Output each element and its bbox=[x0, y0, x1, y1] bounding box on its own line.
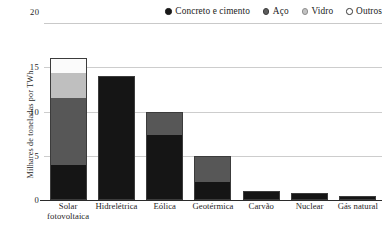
x-axis-label-line1: Gás natural bbox=[338, 201, 378, 211]
y-axis-max-label: 20 bbox=[30, 7, 39, 17]
bar-column bbox=[44, 23, 92, 200]
x-axis-label: Nuclear bbox=[285, 202, 333, 212]
bar-segment-concrete bbox=[243, 191, 280, 200]
chart-legend: Concreto e cimentoAçoVidroOutros bbox=[0, 6, 388, 20]
stacked-bar[interactable] bbox=[194, 156, 231, 200]
bar-segment-concrete bbox=[291, 193, 328, 200]
y-axis-tick-label: 5 bbox=[34, 151, 39, 161]
bar-column bbox=[141, 23, 189, 200]
bar-column bbox=[92, 23, 140, 200]
bar-segment-concrete bbox=[194, 182, 231, 200]
x-axis-labels: SolarfotovoltaicaHidrelétricaEólicaGeoté… bbox=[44, 202, 382, 230]
bar-column bbox=[334, 23, 382, 200]
y-axis-tick-label: 10 bbox=[30, 107, 39, 117]
x-axis-label: Eólica bbox=[141, 202, 189, 212]
x-axis-label: Carvão bbox=[237, 202, 285, 212]
legend-item-label: Concreto e cimento bbox=[175, 6, 250, 17]
legend-item-label: Aço bbox=[273, 6, 289, 17]
legend-item-other[interactable]: Outros bbox=[346, 6, 382, 17]
x-axis-label-line1: Hidrelétrica bbox=[95, 201, 137, 211]
bar-segment-glass bbox=[50, 73, 87, 98]
bar-column bbox=[237, 23, 285, 200]
legend-item-steel[interactable]: Aço bbox=[263, 6, 289, 17]
chart-root: Concreto e cimentoAçoVidroOutros 20 Milh… bbox=[0, 0, 388, 231]
x-axis-label-line1: Solar bbox=[59, 201, 78, 211]
filled-circle-black-icon bbox=[165, 8, 171, 14]
bar-segment-steel bbox=[194, 156, 231, 183]
bar-segment-steel bbox=[50, 98, 87, 164]
bar-column bbox=[189, 23, 237, 200]
x-axis-label-line2: fotovoltaica bbox=[45, 212, 91, 222]
x-axis-label-line1: Geotérmica bbox=[192, 201, 233, 211]
legend-item-label: Vidro bbox=[312, 6, 334, 17]
y-axis-tick-label: 0 bbox=[34, 195, 39, 205]
filled-circle-light-gray-icon bbox=[302, 8, 308, 14]
x-axis-label: Gás natural bbox=[334, 202, 382, 212]
bar-column bbox=[285, 23, 333, 200]
y-axis-tick-label: 15 bbox=[30, 62, 39, 72]
bar-segment-concrete bbox=[50, 165, 87, 200]
bar-segment-steel bbox=[146, 112, 183, 136]
plot-area: 051015 bbox=[44, 23, 382, 200]
legend-item-label: Outros bbox=[356, 6, 382, 17]
x-axis-label-line1: Nuclear bbox=[296, 201, 324, 211]
stacked-bar[interactable] bbox=[243, 191, 280, 200]
x-axis-label: Geotérmica bbox=[189, 202, 237, 212]
stacked-bar[interactable] bbox=[50, 58, 87, 200]
bar-segment-concrete bbox=[98, 77, 135, 200]
x-axis-label-line1: Carvão bbox=[249, 201, 274, 211]
filled-circle-dark-gray-icon bbox=[263, 8, 269, 14]
x-axis-label: Solarfotovoltaica bbox=[44, 202, 92, 221]
x-axis-label: Hidrelétrica bbox=[92, 202, 140, 212]
bar-group bbox=[44, 23, 382, 200]
stacked-bar[interactable] bbox=[98, 76, 135, 200]
legend-item-concrete[interactable]: Concreto e cimento bbox=[165, 6, 250, 17]
open-circle-white-icon bbox=[346, 8, 352, 14]
legend-item-glass[interactable]: Vidro bbox=[302, 6, 334, 17]
stacked-bar[interactable] bbox=[146, 112, 183, 201]
bar-segment-concrete bbox=[146, 135, 183, 200]
x-axis-label-line1: Eólica bbox=[153, 201, 176, 211]
bar-segment-other bbox=[50, 58, 87, 73]
stacked-bar[interactable] bbox=[291, 193, 328, 200]
